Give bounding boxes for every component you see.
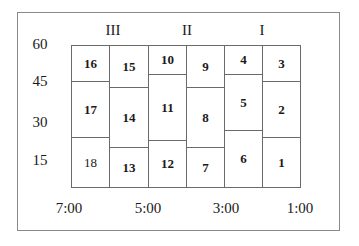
zone-label: III xyxy=(106,22,121,38)
block-13: 13 xyxy=(109,147,149,188)
block-12: 12 xyxy=(148,140,187,188)
x-axis-label: 1:00 xyxy=(287,200,314,216)
zone-label: II xyxy=(182,22,192,38)
block-6: 6 xyxy=(224,130,263,188)
block-1: 1 xyxy=(262,137,301,188)
y-axis-label: 60 xyxy=(33,36,48,52)
y-axis-label: 30 xyxy=(33,114,48,130)
block-8: 8 xyxy=(186,87,225,148)
block-9: 9 xyxy=(186,45,225,88)
zone-label: I xyxy=(260,22,265,38)
block-5: 5 xyxy=(224,74,263,131)
y-axis-label: 15 xyxy=(33,152,48,168)
block-7: 7 xyxy=(186,147,225,188)
block-14: 14 xyxy=(109,87,149,148)
block-18: 18 xyxy=(71,137,110,188)
block-11: 11 xyxy=(148,74,187,141)
x-axis-label: 3:00 xyxy=(213,200,240,216)
block-16: 16 xyxy=(71,45,110,82)
block-3: 3 xyxy=(262,45,301,82)
block-10: 10 xyxy=(148,45,187,75)
block-17: 17 xyxy=(71,81,110,138)
x-axis-label: 5:00 xyxy=(135,200,162,216)
block-15: 15 xyxy=(109,45,149,88)
x-axis-label: 7:00 xyxy=(56,200,83,216)
block-grid: 161718151413101112987456321 xyxy=(71,45,300,187)
block-4: 4 xyxy=(224,45,263,75)
block-2: 2 xyxy=(262,81,301,138)
y-axis-label: 45 xyxy=(33,73,48,89)
